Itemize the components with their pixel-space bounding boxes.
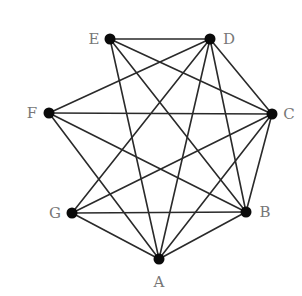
node-label-c: C	[283, 105, 294, 123]
edge-c-g	[72, 114, 272, 213]
node-d	[205, 34, 216, 45]
edge-g-a	[72, 213, 159, 259]
node-g	[67, 208, 78, 219]
node-label-e: E	[89, 30, 100, 48]
node-c	[267, 109, 278, 120]
edge-d-c	[210, 39, 272, 114]
edge-f-c	[49, 113, 272, 114]
edge-c-b	[246, 114, 272, 212]
node-b	[241, 207, 252, 218]
node-e	[105, 34, 116, 45]
node-a	[154, 254, 165, 265]
edge-e-b	[110, 39, 246, 212]
node-label-a: A	[153, 273, 165, 291]
edge-f-b	[49, 113, 246, 212]
edges-group	[49, 39, 272, 259]
node-label-d: D	[223, 30, 235, 48]
graph-diagram: ABCDEFG	[0, 0, 302, 296]
node-label-f: F	[27, 104, 37, 122]
edge-g-b	[72, 212, 246, 213]
edge-e-c	[110, 39, 272, 114]
node-f	[44, 108, 55, 119]
nodes-group	[44, 34, 278, 265]
node-label-g: G	[49, 204, 61, 222]
node-label-b: B	[259, 203, 270, 221]
edge-d-f	[49, 39, 210, 113]
edge-b-a	[159, 212, 246, 259]
